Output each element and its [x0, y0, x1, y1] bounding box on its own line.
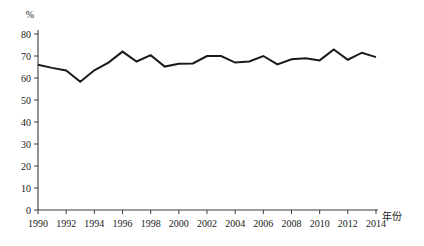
- x-axis-tick-label: 2010: [310, 218, 330, 229]
- x-axis-tick-label: 2008: [282, 218, 302, 229]
- x-axis-tick-label: 1990: [28, 218, 48, 229]
- x-axis-tick-label: 2000: [169, 218, 189, 229]
- y-axis-tick-label: 30: [21, 139, 31, 150]
- x-axis-tick-label: 1996: [113, 218, 133, 229]
- y-axis-tick-label: 60: [21, 73, 31, 84]
- line-chart: 01020304050607080 1990199219941996199820…: [0, 0, 424, 246]
- y-axis-tick-label: 10: [21, 183, 31, 194]
- y-axis-tick-label: 80: [21, 29, 31, 40]
- y-axis-tick-label: 0: [26, 205, 31, 216]
- x-axis-title: 年份: [382, 210, 402, 222]
- x-axis-tick-label: 2004: [225, 218, 245, 229]
- y-axis-unit-label: %: [26, 9, 34, 20]
- y-axis-tick-label: 20: [21, 161, 31, 172]
- x-axis-tick-label: 1992: [56, 218, 76, 229]
- x-axis-tick-label: 1998: [141, 218, 161, 229]
- chart-page: 01020304050607080 1990199219941996199820…: [0, 0, 424, 246]
- x-axis: 1990199219941996199820002002200420062008…: [28, 210, 386, 229]
- x-axis-tick-label: 2006: [253, 218, 273, 229]
- x-axis-tick-label: 1994: [84, 218, 104, 229]
- y-axis: 01020304050607080: [21, 29, 38, 216]
- y-axis-tick-label: 40: [21, 117, 31, 128]
- x-axis-tick-label: 2002: [197, 218, 217, 229]
- data-series-line: [38, 49, 376, 81]
- y-axis-tick-label: 70: [21, 51, 31, 62]
- chart-svg: 01020304050607080 1990199219941996199820…: [0, 0, 424, 246]
- y-axis-tick-label: 50: [21, 95, 31, 106]
- x-axis-tick-label: 2012: [338, 218, 358, 229]
